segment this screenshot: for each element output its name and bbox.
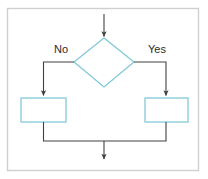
edge-label-no: No (54, 43, 68, 55)
branch-false-action-node[interactable] (21, 98, 66, 122)
flowchart-canvas: No Yes (0, 0, 208, 179)
branch-true-action-node[interactable] (145, 98, 188, 122)
diagram-frame (8, 9, 199, 171)
edge-label-yes: Yes (148, 43, 166, 55)
flowchart-svg: No Yes (0, 0, 208, 179)
